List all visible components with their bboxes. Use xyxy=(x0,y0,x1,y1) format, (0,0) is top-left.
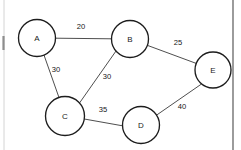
edge-weight-b-c: 30 xyxy=(103,72,111,81)
weighted-graph-figure: A B C D E 20 30 30 25 35 40 xyxy=(0,0,241,150)
edge-a-b xyxy=(56,38,112,39)
node-d-label: D xyxy=(138,121,144,130)
node-e-label: E xyxy=(210,66,215,75)
edge-weight-b-e: 25 xyxy=(174,38,182,47)
edge-weight-a-c: 30 xyxy=(52,65,60,74)
graph-nodes: A B C D E xyxy=(19,20,232,144)
diagram-canvas: A B C D E 20 30 30 25 35 40 xyxy=(0,0,241,150)
node-a-label: A xyxy=(34,34,40,43)
edge-c-d xyxy=(84,119,122,126)
node-c-label: C xyxy=(62,112,68,121)
edge-a-c xyxy=(44,55,59,97)
edge-weight-a-b: 20 xyxy=(77,22,85,31)
edge-weight-c-d: 35 xyxy=(99,105,107,114)
edge-weight-d-e: 40 xyxy=(178,102,186,111)
node-b-label: B xyxy=(127,35,132,44)
edge-b-e xyxy=(148,46,197,64)
